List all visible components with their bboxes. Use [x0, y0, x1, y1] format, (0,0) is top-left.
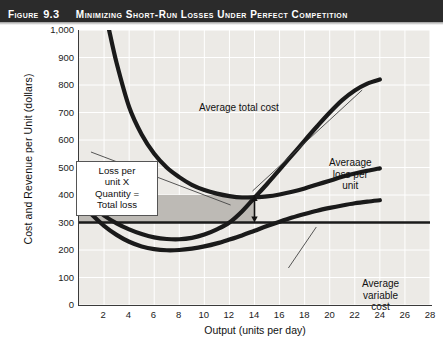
label-average-loss-line1: Averaage [329, 157, 372, 168]
y-axis-tick-label: 400 [34, 189, 74, 200]
figure-header-bar: Figure 9.3 Minimizing Short-Run Losses U… [0, 0, 443, 22]
total-loss-line3: Quantity = [79, 188, 155, 199]
x-axis-tick-label: 8 [168, 309, 190, 320]
figure-number: 9.3 [43, 8, 59, 20]
x-axis-tick-label: 20 [318, 309, 340, 320]
x-axis-line [78, 305, 432, 306]
y-axis-tick-label: 100 [34, 272, 74, 283]
y-axis-tick-label: 600 [34, 134, 74, 145]
y-axis-tick-label: 200 [34, 244, 74, 255]
x-axis-title: Output (units per day) [78, 324, 432, 336]
label-average-loss-line2: loss per [333, 169, 368, 180]
x-axis-tick-label: 14 [243, 309, 265, 320]
x-axis-tick-label: 28 [419, 309, 441, 320]
label-average-loss-per-unit: Averaage loss per unit [329, 157, 372, 192]
x-axis-tick-label: 4 [117, 309, 139, 320]
y-axis-tick-label: 800 [34, 79, 74, 90]
y-axis-tick-label: 900 [34, 52, 74, 63]
x-axis-tick-label: 26 [394, 309, 416, 320]
leader-average-variable-cost [288, 227, 316, 268]
label-average-total-cost: Average total cost [199, 102, 279, 114]
figure-body: Cost and Revenue per Unit (dollars) 0100… [0, 25, 443, 356]
figure-header-text: Figure 9.3 Minimizing Short-Run Losses U… [8, 4, 348, 22]
x-axis-tick-label: 18 [293, 309, 315, 320]
label-average-variable-cost-line1: Average [362, 278, 399, 289]
y-axis-tick-label: 700 [34, 107, 74, 118]
y-axis-tick-label: 300 [34, 217, 74, 228]
x-axis-tick-label: 12 [218, 309, 240, 320]
figure-label: Figure [8, 9, 39, 20]
x-axis-tick-label: 22 [344, 309, 366, 320]
y-axis-ticks: 01002003004005006007008009001,000 [30, 30, 74, 305]
figure-title: Minimizing Short-Run Losses Under Perfec… [76, 9, 348, 20]
total-loss-callout-box: Loss per unit X Quantity = Total loss [76, 161, 158, 216]
y-axis-tick-label: 0 [34, 299, 74, 310]
x-axis-tick-label: 16 [268, 309, 290, 320]
x-axis-tick-label: 2 [92, 309, 114, 320]
label-average-loss-line3: unit [342, 180, 358, 191]
total-loss-line1: Loss per [79, 165, 155, 176]
x-axis-ticks: 246810121416182022242628 [78, 307, 432, 323]
y-axis-tick-label: 1,000 [34, 24, 74, 35]
x-axis-tick-label: 10 [193, 309, 215, 320]
y-axis-tick-label: 500 [34, 162, 74, 173]
label-average-variable-cost-line2: variable [363, 290, 398, 301]
total-loss-line2: unit X [79, 176, 155, 187]
x-axis-tick-label: 24 [369, 309, 391, 320]
x-axis-tick-label: 6 [142, 309, 164, 320]
total-loss-line4: Total loss [79, 199, 155, 210]
